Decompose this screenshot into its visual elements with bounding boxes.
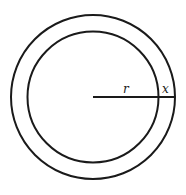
concentric-circles-diagram: r x xyxy=(0,0,186,195)
label-r: r xyxy=(123,82,130,96)
label-x: x xyxy=(162,82,169,96)
